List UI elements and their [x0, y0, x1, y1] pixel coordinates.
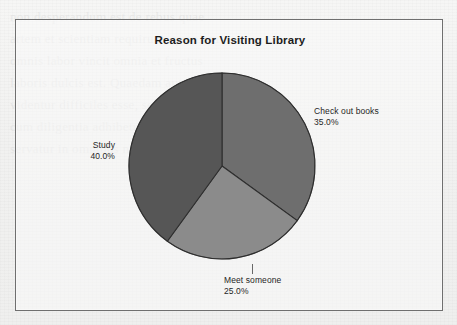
pie-label-check-out-books-value: 35.0% — [314, 117, 379, 128]
pie-chart: Check out books 35.0% Study 40.0% Meet s… — [16, 20, 444, 312]
pie-svg — [124, 68, 320, 264]
scanned-page: non desperandum est de rebus quae artem … — [0, 0, 457, 325]
pie-label-meet-someone-value: 25.0% — [224, 286, 281, 297]
pie-label-study-text: Study — [93, 140, 115, 150]
pie-label-study: Study 40.0% — [90, 140, 115, 161]
pie-label-check-out-books-text: Check out books — [314, 106, 379, 116]
chart-frame: Reason for Visiting Library Check out bo… — [15, 19, 443, 311]
pie-label-study-value: 40.0% — [90, 151, 115, 162]
pie-label-meet-someone: Meet someone 25.0% — [224, 275, 281, 296]
pie-label-meet-someone-text: Meet someone — [224, 275, 281, 285]
pie-label-check-out-books: Check out books 35.0% — [314, 106, 379, 127]
meet-someone-leader-line — [252, 264, 253, 274]
